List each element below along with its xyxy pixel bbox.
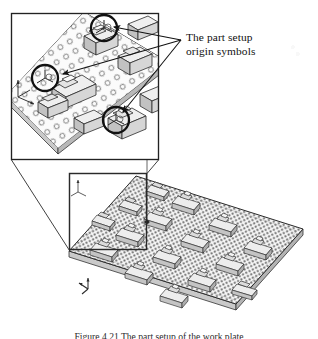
connector-right [147, 160, 159, 174]
figure-caption: Figure 4.21 The part setup of the work p… [0, 331, 318, 339]
connector-left [12, 160, 70, 251]
callout-label: The part setup origin symbols [186, 31, 308, 58]
coordinate-axis-overview-plate [71, 180, 86, 196]
coordinate-axis-overview [79, 278, 90, 294]
overview-plate-group [69, 160, 303, 310]
figure-container: The part setup origin symbols Figure 4.2… [0, 0, 318, 339]
